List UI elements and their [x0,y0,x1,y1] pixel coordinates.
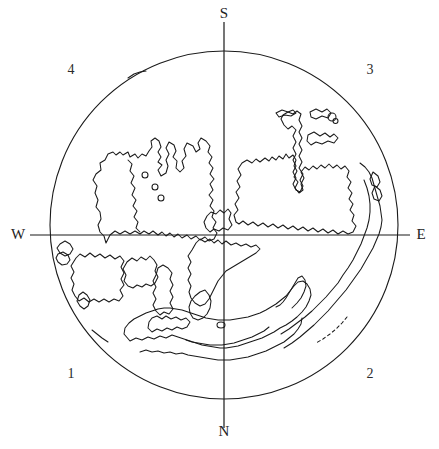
quadrant-label-4: 4 [64,63,78,77]
quadrant-label-2: 2 [363,367,377,381]
quadrant-label-3: 3 [363,63,377,77]
cardinal-label-east: E [413,227,429,242]
quadrant-label-1: 1 [64,367,78,381]
cardinal-label-west: W [10,227,26,242]
cardinal-label-south: S [217,6,231,21]
cardinal-label-north: N [217,424,231,439]
